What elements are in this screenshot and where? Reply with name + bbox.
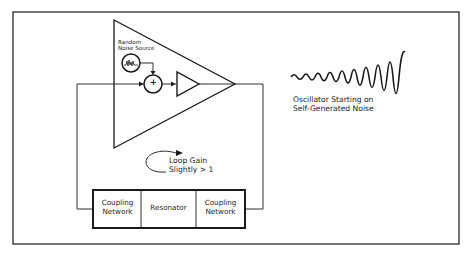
loop-gain-line2: Slightly > 1 xyxy=(169,166,213,175)
coupling-network-left: Coupling Network xyxy=(94,198,141,217)
waveform-caption: Oscillator Starting on Self-Generated No… xyxy=(293,96,374,113)
oscillation-waveform xyxy=(291,52,405,94)
coupling-network-left-line1: Coupling xyxy=(94,198,141,207)
summing-symbol: + xyxy=(150,78,157,87)
feedback-loop-left xyxy=(77,84,93,209)
coupling-network-right-line2: Network xyxy=(196,207,245,216)
coupling-network-left-line2: Network xyxy=(94,207,141,216)
coupling-network-right-line1: Coupling xyxy=(196,198,245,207)
noise-source-label-line2: Noise Source xyxy=(118,45,155,51)
gain-stage-triangle xyxy=(177,72,199,96)
arrowhead-icon xyxy=(171,82,176,87)
noise-source-label: Random Noise Source xyxy=(118,39,155,52)
resonator: Resonator xyxy=(141,203,196,212)
coupling-network-right: Coupling Network xyxy=(196,198,245,217)
resonator-label: Resonator xyxy=(141,203,196,212)
waveform-caption-line2: Self-Generated Noise xyxy=(293,105,374,114)
arrowhead-icon xyxy=(139,82,144,87)
loop-gain-label: Loop Gain Slightly > 1 xyxy=(169,157,213,174)
noise-to-sum-connector xyxy=(140,63,153,72)
noise-source-icon xyxy=(122,54,140,72)
